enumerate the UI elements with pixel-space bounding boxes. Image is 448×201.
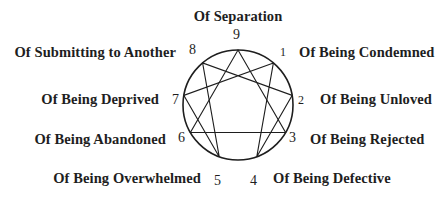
label-point-9: Of Separation bbox=[178, 9, 298, 24]
number-4: 4 bbox=[250, 174, 257, 188]
label-point-5: Of Being Overwhelmed bbox=[20, 171, 201, 186]
label-point-1: Of Being Condemned bbox=[299, 45, 435, 60]
triangle-lines bbox=[190, 50, 285, 133]
number-1: 1 bbox=[280, 46, 286, 58]
label-point-8: Of Submitting to Another bbox=[0, 45, 176, 60]
label-point-7: Of Being Deprived bbox=[0, 92, 159, 107]
number-8: 8 bbox=[189, 43, 196, 57]
label-point-6: Of Being Abandoned bbox=[0, 132, 166, 147]
enneagram-diagram: Of Separation 9 1 Of Being Condemned 2 O… bbox=[0, 0, 448, 201]
label-point-3: Of Being Rejected bbox=[310, 132, 424, 147]
label-point-2: Of Being Unloved bbox=[320, 92, 432, 107]
number-5: 5 bbox=[214, 174, 221, 188]
number-9: 9 bbox=[233, 28, 240, 42]
number-6: 6 bbox=[178, 131, 185, 145]
hexad-lines bbox=[184, 63, 292, 157]
number-7: 7 bbox=[172, 93, 179, 107]
enneagram-circle bbox=[183, 50, 293, 160]
number-2: 2 bbox=[298, 94, 304, 106]
number-3: 3 bbox=[289, 131, 296, 145]
label-point-4: Of Being Defective bbox=[273, 171, 391, 186]
